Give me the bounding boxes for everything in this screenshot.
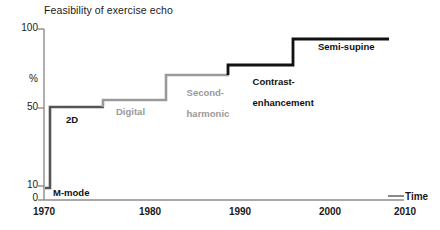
chart-title: Feasibility of exercise echo: [44, 5, 173, 16]
series-label-m-mode: M-mode: [53, 188, 89, 198]
y-axis-title: %: [8, 74, 38, 85]
x-tick-label-1970: 1970: [22, 207, 66, 218]
x-tick-label-1980: 1980: [128, 207, 172, 218]
series-label-contrast-enhancement: Contrast- enhancement: [242, 67, 314, 118]
series-label-second-harmonic-line1: Second-: [187, 87, 224, 98]
series-label-contrast-line2: enhancement: [253, 97, 314, 108]
x-tick-label-1990: 1990: [218, 207, 262, 218]
feasibility-exercise-echo-chart: Feasibility of exercise echo 100 50 10 0…: [0, 0, 440, 230]
y-tick-label-50: 50: [8, 102, 38, 113]
y-tick-label-10: 10: [8, 180, 38, 191]
series-label-semi-supine: Semi-supine: [318, 42, 375, 52]
x-tick-label-2010: 2010: [383, 207, 427, 218]
series-label-digital: Digital: [116, 107, 145, 117]
x-tick-label-2000: 2000: [308, 207, 352, 218]
y-tick-label-100: 100: [8, 23, 38, 34]
x-axis-title: Time: [405, 192, 428, 203]
y-tick-label-0: 0: [8, 193, 38, 204]
series-label-second-harmonic-line2: harmonic: [187, 108, 230, 119]
series-label-second-harmonic: Second- harmonic: [176, 78, 229, 129]
series-label-contrast-line1: Contrast-: [253, 76, 295, 87]
series-label-2d: 2D: [66, 115, 78, 125]
